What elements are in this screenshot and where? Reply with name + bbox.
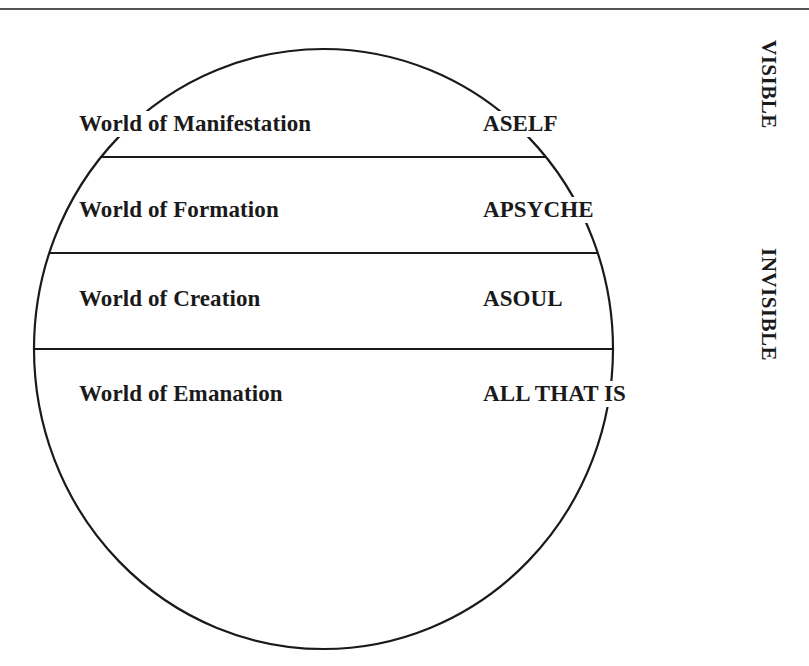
aspect-label-asoul: ASOUL	[480, 286, 566, 312]
aspect-label-all-that-is: ALL THAT IS	[480, 381, 629, 407]
world-label-creation: World of Creation	[76, 286, 263, 312]
worlds-circle-diagram	[0, 0, 809, 666]
side-label-visible: VISIBLE	[758, 40, 780, 129]
world-label-formation: World of Formation	[76, 197, 282, 223]
aspect-label-aself: ASELF	[480, 111, 561, 137]
world-label-manifestation: World of Manifestation	[76, 111, 314, 137]
aspect-label-apsyche: APSYCHE	[480, 197, 597, 223]
side-label-invisible: INVISIBLE	[758, 248, 780, 361]
world-label-emanation: World of Emanation	[76, 381, 286, 407]
